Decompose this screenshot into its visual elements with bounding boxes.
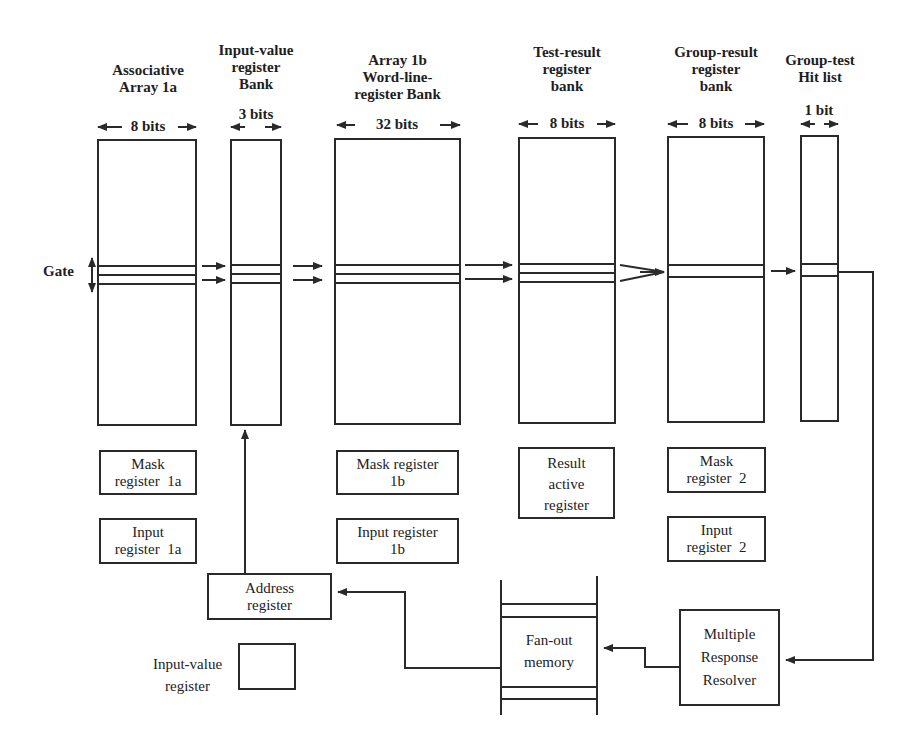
input-value-register-label: Input-value register (140, 653, 235, 697)
label-line: Input-value (140, 653, 235, 675)
input-register-2: Input register 2 (667, 516, 766, 562)
multiple-response-resolver: Multiple Response Resolver (679, 609, 780, 706)
input-value-register (238, 643, 296, 690)
title-line: Bank (206, 76, 306, 93)
title-line: Array 1a (88, 79, 208, 96)
test-result-bits: 8 bits (537, 115, 597, 132)
title-line: Word-line- (335, 69, 460, 86)
group-result-body (668, 137, 764, 422)
label-line: Mask (101, 456, 195, 473)
label-line: Response (681, 646, 778, 669)
test-result-body (519, 138, 615, 423)
assoc-array-1a-bits: 8 bits (118, 118, 178, 135)
box-label: Input register 2 (669, 522, 764, 556)
box-label: Address register (209, 580, 330, 614)
label-line: Address (209, 580, 330, 597)
input-value-bank-title: Input-value register Bank (206, 42, 306, 93)
label-line: memory (501, 651, 597, 673)
label-line: register 1a (101, 473, 195, 490)
label-line: Mask register (338, 456, 457, 473)
diagram-wires (0, 0, 919, 745)
input-value-bank-bits: 3 bits (226, 106, 286, 123)
label-line: Result (520, 453, 613, 474)
title-line: Group-test (774, 52, 866, 69)
label-line: Input register (338, 524, 457, 541)
label-line: register (140, 675, 235, 697)
title-line: bank (512, 78, 622, 95)
assoc-array-1a-body (98, 140, 196, 425)
result-active-register: Result active register (518, 447, 615, 519)
title-line: register Bank (335, 86, 460, 103)
title-line: bank (656, 78, 776, 95)
array-1b-bits: 32 bits (362, 116, 432, 133)
mask-register-1a: Mask register 1a (99, 450, 197, 495)
box-label: Input register 1a (101, 524, 195, 558)
test-result-title: Test-result register bank (512, 44, 622, 95)
label-line: Multiple (681, 623, 778, 646)
address-register: Address register (207, 573, 332, 620)
label-line: 1b (338, 473, 457, 490)
box-label: Multiple Response Resolver (681, 623, 778, 692)
input-register-1b: Input register 1b (336, 518, 459, 564)
title-line: register (512, 61, 622, 78)
label-line: Input (669, 522, 764, 539)
label-line: Input (101, 524, 195, 541)
gate-label: Gate (43, 263, 74, 280)
mask-register-2: Mask register 2 (667, 447, 766, 493)
label-line: active (520, 474, 613, 495)
label-line: register 1a (101, 541, 195, 558)
label-line: register 2 (669, 539, 764, 556)
array-1b-body (335, 139, 460, 424)
title-line: register (656, 61, 776, 78)
label-line: register 2 (669, 470, 764, 487)
title-line: register (206, 59, 306, 76)
label-line: Mask (669, 453, 764, 470)
label-line: Resolver (681, 669, 778, 692)
group-result-title: Group-result register bank (656, 44, 776, 95)
input-register-1a: Input register 1a (99, 518, 197, 564)
title-line: Associative (88, 62, 208, 79)
label-line: 1b (338, 541, 457, 558)
title-line: Group-result (656, 44, 776, 61)
hit-list-body (801, 136, 838, 421)
title-line: Hit list (774, 69, 866, 86)
mask-register-1b: Mask register 1b (336, 450, 459, 495)
assoc-array-1a-title: Associative Array 1a (88, 62, 208, 96)
label-line: Fan-out (501, 629, 597, 651)
box-label: Mask register 2 (669, 453, 764, 487)
label-line: register (209, 597, 330, 614)
group-result-bits: 8 bits (686, 115, 746, 132)
box-label: Mask register 1a (101, 456, 195, 490)
title-line: Array 1b (335, 52, 460, 69)
label-line: register (520, 495, 613, 516)
box-label: Input register 1b (338, 524, 457, 558)
hit-list-bits: 1 bit (794, 102, 844, 119)
box-label: Mask register 1b (338, 456, 457, 490)
fan-out-memory-label: Fan-out memory (501, 629, 597, 673)
array-1b-title: Array 1b Word-line- register Bank (335, 52, 460, 103)
title-line: Test-result (512, 44, 622, 61)
hit-list-title: Group-test Hit list (774, 52, 866, 86)
box-label: Result active register (520, 453, 613, 516)
title-line: Input-value (206, 42, 306, 59)
